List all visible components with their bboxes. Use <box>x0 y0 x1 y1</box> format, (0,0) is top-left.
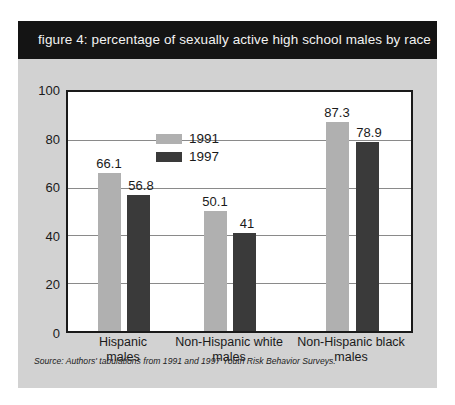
plot-area: 1991 1997 66.1 56.8 50.1 41 87.3 78.9 <box>66 90 413 333</box>
y-tick-60: 60 <box>26 180 60 195</box>
bar-label-hispanic-1991: 66.1 <box>96 156 121 171</box>
figure-title: figure 4: percentage of sexually active … <box>38 21 429 59</box>
bar-hispanic-1997 <box>127 195 150 331</box>
y-tick-20: 20 <box>26 277 60 292</box>
bar-nhblack-1991 <box>326 122 349 331</box>
y-tick-40: 40 <box>26 228 60 243</box>
bar-nhwhite-1997 <box>233 233 256 331</box>
figure-container: figure 4: percentage of sexually active … <box>0 0 455 405</box>
y-tick-100: 100 <box>26 83 60 98</box>
category-label-nhwhite-line1: Non-Hispanic white <box>175 335 283 350</box>
figure-panel: 0 20 40 60 80 100 1991 1997 <box>18 59 437 388</box>
category-label-hispanic-line1: Hispanic <box>99 335 147 350</box>
bar-label-nhblack-1991: 87.3 <box>324 105 349 120</box>
source-note: Source: Authors' tabulations from 1991 a… <box>34 356 336 366</box>
bar-label-nhwhite-1997: 41 <box>240 216 254 231</box>
bar-label-hispanic-1997: 56.8 <box>128 178 153 193</box>
legend-label-1997: 1997 <box>189 149 219 164</box>
bar-label-nhwhite-1991: 50.1 <box>202 194 227 209</box>
y-axis: 0 20 40 60 80 100 <box>24 90 60 333</box>
bar-nhwhite-1991 <box>204 211 227 331</box>
y-tick-0: 0 <box>26 326 60 341</box>
bar-nhblack-1997 <box>356 142 379 331</box>
figure-title-banner: figure 4: percentage of sexually active … <box>18 21 437 59</box>
y-tick-80: 80 <box>26 131 60 146</box>
legend-swatch-1997-icon <box>156 152 182 162</box>
bar-hispanic-1991 <box>98 173 121 331</box>
legend-label-1991: 1991 <box>189 131 219 146</box>
legend-swatch-1991-icon <box>156 134 182 144</box>
category-label-nhblack-line1: Non-Hispanic black <box>297 335 405 350</box>
bar-label-nhblack-1997: 78.9 <box>356 125 381 140</box>
